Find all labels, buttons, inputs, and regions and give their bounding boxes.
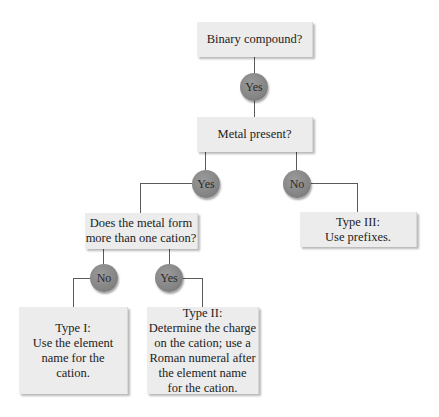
answer-label: Yes bbox=[160, 271, 177, 286]
result-line: Use the element bbox=[33, 336, 114, 351]
connector-q2-no-down bbox=[296, 152, 297, 172]
question-binary-compound: Binary compound? bbox=[197, 22, 313, 57]
result-line: name for the bbox=[41, 351, 104, 366]
answer-label: Yes bbox=[197, 177, 214, 192]
connector-no-to-type1-down bbox=[73, 278, 74, 307]
connector-q2-yes-down bbox=[205, 152, 206, 172]
answer-label: No bbox=[97, 271, 112, 286]
question-metal-present: Metal present? bbox=[197, 117, 313, 152]
question-text: Metal present? bbox=[218, 127, 292, 142]
result-line: the element name bbox=[158, 366, 246, 381]
connector-yes-to-type2-down bbox=[202, 278, 203, 307]
result-line: for the cation. bbox=[168, 381, 238, 396]
result-line: Use prefixes. bbox=[325, 230, 391, 245]
result-line: Type I: bbox=[55, 321, 91, 336]
question-text-line1: Does the metal form bbox=[90, 216, 192, 231]
result-type2: Type II: Determine the charge on the cat… bbox=[147, 307, 259, 394]
result-line: Type III: bbox=[336, 215, 380, 230]
answer-node-q2-no: No bbox=[283, 170, 311, 198]
answer-node-q1-yes: Yes bbox=[240, 73, 268, 101]
result-line: on the cation; use a bbox=[154, 336, 251, 351]
connector-no-to-type3-down bbox=[357, 183, 358, 212]
result-type1: Type I: Use the element name for the cat… bbox=[19, 307, 128, 394]
result-type3: Type III: Use prefixes. bbox=[300, 212, 417, 247]
connector-yes-to-q3-down bbox=[140, 183, 141, 213]
answer-label: Yes bbox=[245, 80, 262, 95]
result-line: cation. bbox=[56, 366, 90, 381]
result-line: Determine the charge bbox=[149, 321, 256, 336]
question-multiple-cations: Does the metal form more than one cation… bbox=[85, 213, 198, 249]
answer-node-q3-yes: Yes bbox=[155, 264, 183, 292]
answer-label: No bbox=[290, 177, 305, 192]
question-text: Binary compound? bbox=[207, 32, 302, 47]
question-text-line2: more than one cation? bbox=[86, 231, 197, 246]
answer-node-q3-no: No bbox=[90, 264, 118, 292]
answer-node-q2-yes: Yes bbox=[192, 170, 220, 198]
result-line: Type II: bbox=[183, 306, 223, 321]
result-line: Roman numeral after bbox=[149, 351, 255, 366]
